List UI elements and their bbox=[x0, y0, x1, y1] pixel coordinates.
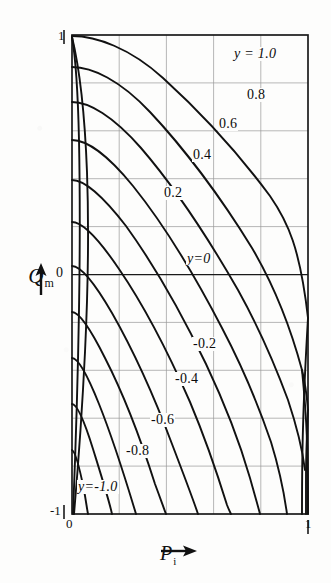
x-tick-one: 1 bbox=[305, 516, 312, 532]
curve-label-0p2: 0.2 bbox=[163, 186, 183, 200]
curve-y-m0p2 bbox=[72, 266, 198, 514]
figure-plot: 1 0 -1 0 1 y = 1.0 0.8 0.6 0.4 0.2 y=0 -… bbox=[0, 0, 331, 583]
curve-label-y-0: y=0 bbox=[186, 252, 212, 266]
right-arrow-icon bbox=[160, 543, 198, 559]
curve-y-0p8 bbox=[72, 67, 308, 410]
curve-label-m0p6: -0.6 bbox=[150, 413, 175, 427]
curve-left-edge-a bbox=[72, 37, 80, 514]
x-axis-label: Pi bbox=[160, 543, 176, 567]
tick-marks bbox=[64, 30, 308, 534]
curve-label-m0p4: -0.4 bbox=[174, 372, 199, 386]
curve-label-y-1p0: y = 1.0 bbox=[233, 47, 277, 61]
curve-label-m0p8: -0.8 bbox=[125, 444, 150, 458]
curve-label-m0p2: -0.2 bbox=[192, 337, 217, 351]
curve-label-y-m1p0: y=-1.0 bbox=[77, 480, 119, 494]
y-tick-bottom: -1 bbox=[50, 503, 61, 519]
curve-label-0p6: 0.6 bbox=[218, 117, 238, 131]
curve-label-0p8: 0.8 bbox=[246, 88, 266, 102]
curve-label-0p4: 0.4 bbox=[192, 148, 212, 162]
y-tick-top: 1 bbox=[58, 28, 65, 44]
y-axis-label: Qm bbox=[18, 262, 64, 291]
x-tick-zero: 0 bbox=[66, 516, 73, 532]
up-arrow-icon bbox=[18, 262, 64, 296]
